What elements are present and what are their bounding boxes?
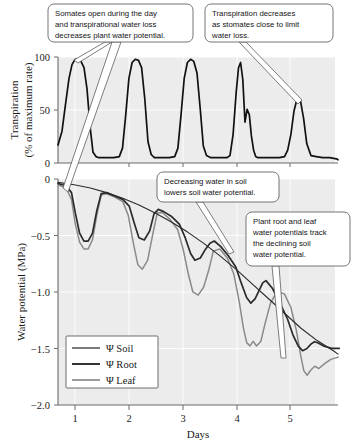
callout-stomata-open-line1: Somates open during the day [55,9,157,18]
figure-container: 100 50 0 Transpiration (% of maximum rat… [0,0,356,445]
wp-ytick-label-0: 0 [45,174,50,185]
callout-root-leaf-track-line1: Plant root and leaf [253,217,317,226]
callout-transpiration-decreases-line3: water loss. [211,31,249,40]
transpiration-ytick-label-100: 100 [34,52,50,63]
callout-stomata-open-line2: and transpirational water loss [55,20,157,29]
wp-xtick-label-1: 1 [72,413,77,424]
wp-xtick-label-5: 5 [287,413,292,424]
transpiration-y-axis-title-line2: (% of maximum rate) [22,62,35,157]
callout-transpiration-decreases-line1: Transpiration decreases [212,9,295,18]
wp-ytick-label-neg10: −1.0 [31,287,50,298]
wp-ytick-label-neg05: −0.5 [31,231,50,242]
callout-soil-water-decreasing-line1: Decreasing water in soil [164,177,247,186]
wp-xtick-label-2: 2 [126,413,131,424]
callout-stomata-open-line3: decreases plant water potential. [55,31,165,40]
wp-xtick-label-3: 3 [180,413,185,424]
water-potential-legend: Ψ Soil Ψ Root Ψ Leaf [66,336,158,388]
callout-root-leaf-track-line2: water potentials track [252,228,327,237]
wp-ytick-label-neg15: −1.5 [31,344,50,355]
legend-label-psi-soil: Ψ Soil [106,343,133,354]
callout-root-leaf-track-line3: the declining soil [253,239,311,248]
callout-soil-water-decreasing-line2: lowers soil water potential. [164,188,255,197]
water-potential-x-axis-title: Days [187,428,210,440]
wp-xtick-label-4: 4 [234,413,240,424]
legend-label-psi-root: Ψ Root [106,359,137,370]
transpiration-ytick-label-0: 0 [45,158,50,169]
chart-svg: 100 50 0 Transpiration (% of maximum rat… [0,0,356,445]
callout-root-leaf-track-line4: water potential. [252,250,306,259]
legend-label-psi-leaf: Ψ Leaf [106,375,136,386]
transpiration-ytick-label-50: 50 [40,105,51,116]
callout-transpiration-decreases-line2: as stomates close to limit [212,20,300,29]
water-potential-y-axis-title: Water potential (MPa) [15,243,28,341]
transpiration-chart: 100 50 0 Transpiration (% of maximum rat… [8,52,338,169]
wp-ytick-label-neg20: −2.0 [31,400,50,411]
transpiration-y-axis-title-line1: Transpiration [8,80,20,139]
